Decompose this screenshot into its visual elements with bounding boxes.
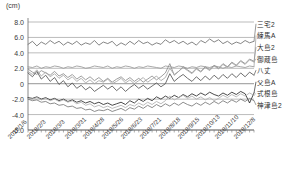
legend-label: 御蔵島 <box>256 54 278 64</box>
legend-item-5[interactable]: 父島A <box>256 76 307 88</box>
legend: 三宅2練馬A大島2御蔵島八丈父島A式根島神津島2 <box>256 18 307 111</box>
legend-item-0[interactable]: 三宅2 <box>256 18 307 30</box>
legend-item-1[interactable]: 練馬A <box>256 30 307 42</box>
legend-label: 大島2 <box>256 42 275 52</box>
legend-item-3[interactable]: 御蔵島 <box>256 53 307 65</box>
y-axis-tick-4: 0 <box>0 80 24 87</box>
y-axis-unit-label: (cm) <box>6 2 20 9</box>
y-axis-tick-5: -2.0 <box>0 96 24 103</box>
legend-item-7[interactable]: 神津島2 <box>256 99 307 111</box>
series-line-0 <box>28 39 254 46</box>
legend-label: 式根島 <box>256 88 278 98</box>
legend-label: 神津島2 <box>256 100 282 110</box>
series-line-5 <box>28 91 254 105</box>
legend-label: 練馬A <box>256 30 275 40</box>
y-axis-tick-6: -4.0 <box>0 111 24 118</box>
legend-label: 三宅2 <box>256 19 275 29</box>
crustal-deformation-line-chart: (cm) 8.06.04.02.00-2.0-4.0-6.0 三宅2練馬A大島2… <box>0 0 307 180</box>
legend-label: 父島A <box>256 77 275 87</box>
y-axis-tick-1: 6.0 <box>0 34 24 41</box>
legend-item-2[interactable]: 大島2 <box>256 41 307 53</box>
legend-item-6[interactable]: 式根島 <box>256 88 307 100</box>
legend-item-4[interactable]: 八丈 <box>256 64 307 76</box>
y-axis-tick-2: 4.0 <box>0 49 24 56</box>
legend-label: 八丈 <box>256 65 271 75</box>
y-axis-tick-0: 8.0 <box>0 19 24 26</box>
y-axis-tick-3: 2.0 <box>0 65 24 72</box>
